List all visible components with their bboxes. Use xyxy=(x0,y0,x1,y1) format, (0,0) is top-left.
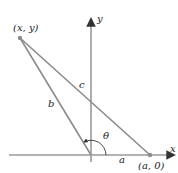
side-c-label: c xyxy=(79,79,85,90)
triangle-diagram: (x, y) (a, 0) y x c b a θ xyxy=(0,0,178,173)
side-c xyxy=(20,38,150,155)
angle-theta-label: θ xyxy=(103,130,109,141)
side-a-label: a xyxy=(119,154,125,165)
y-axis-label: y xyxy=(96,13,103,24)
point-xy xyxy=(18,36,22,40)
x-axis-label: x xyxy=(170,143,176,154)
point-a0 xyxy=(148,153,152,157)
side-b-label: b xyxy=(48,98,54,109)
side-b xyxy=(20,38,91,155)
point-a0-label: (a, 0) xyxy=(138,160,165,171)
point-xy-label: (x, y) xyxy=(13,22,39,33)
